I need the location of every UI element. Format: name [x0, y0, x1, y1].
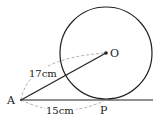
measurement-ao: 17cm	[29, 68, 57, 79]
label-a: A	[6, 94, 16, 107]
point-a-dot	[20, 99, 22, 101]
tangent-diagram: O A P 17cm 15cm	[0, 0, 162, 122]
measurement-ap: 15cm	[46, 105, 74, 116]
label-p: P	[100, 104, 108, 117]
label-o: O	[110, 47, 119, 60]
point-o-dot	[104, 51, 108, 55]
